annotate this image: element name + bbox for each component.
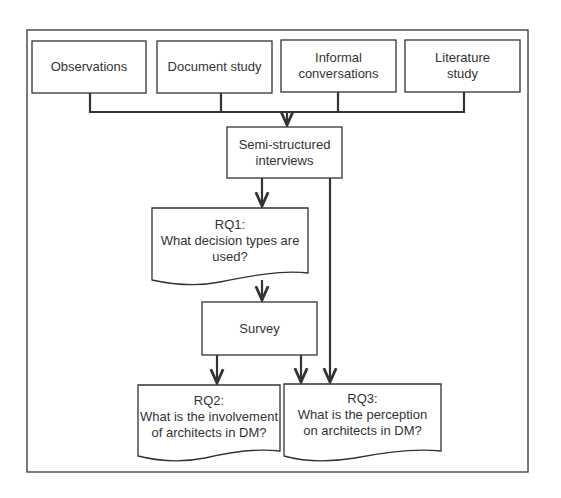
label-survey: Survey (202, 302, 317, 355)
label-literature-study: Literature study (405, 40, 520, 92)
label-informal-conversations: Informal conversations (281, 40, 396, 92)
connector-sources (90, 92, 464, 112)
label-document-study: Document study (157, 41, 272, 93)
label-rq3: RQ3: What is the perception on architect… (284, 386, 441, 444)
label-observations: Observations (32, 41, 146, 93)
label-rq1: RQ1: What decision types are used? (152, 212, 308, 270)
label-rq2: RQ2: What is the involvement of architec… (138, 388, 280, 446)
label-semi-structured-interviews: Semi-structured interviews (227, 127, 342, 178)
